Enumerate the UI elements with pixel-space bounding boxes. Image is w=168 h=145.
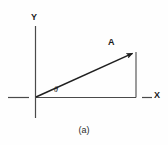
y-axis-label: Y xyxy=(31,13,37,22)
vector-diagram-figure: Y X A θ (a) xyxy=(0,0,168,145)
figure-caption: (a) xyxy=(0,126,168,135)
vector-a-arrow xyxy=(36,53,133,97)
angle-theta-label: θ xyxy=(54,86,58,94)
vector-a-label: A xyxy=(108,38,115,47)
vector-diagram-canvas xyxy=(0,0,168,145)
x-axis-label: X xyxy=(154,91,160,100)
